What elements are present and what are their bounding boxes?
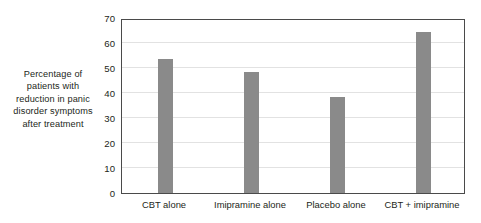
y-axis-label-line: reduction in panic [4, 93, 102, 105]
bar-chart-figure: Percentage of patients with reduction in… [0, 0, 481, 223]
y-axis-tick-label: 30 [89, 114, 115, 124]
y-axis-tick-label: 60 [89, 39, 115, 49]
y-axis-tick-label: 10 [89, 164, 115, 174]
y-axis-label: Percentage of patients with reduction in… [4, 68, 102, 130]
bar [330, 97, 345, 193]
y-axis-tick-label: 20 [89, 139, 115, 149]
y-axis-label-line: disorder symptoms [4, 105, 102, 117]
bar-slot [122, 20, 208, 193]
y-axis-tick-label: 0 [89, 189, 115, 199]
y-axis-tick-label: 70 [89, 14, 115, 24]
y-axis-tick-label: 50 [89, 64, 115, 74]
bar [416, 32, 431, 193]
y-axis-label-line: Percentage of [4, 68, 102, 80]
bar [158, 59, 173, 193]
y-axis-label-line: patients with [4, 80, 102, 92]
bar [244, 72, 259, 193]
bar-slot [208, 20, 294, 193]
bar-slot [380, 20, 466, 193]
x-axis-category-label: CBT + imipramine [367, 199, 477, 210]
y-axis-label-line: after treatment [4, 118, 102, 130]
plot-area [121, 19, 465, 194]
y-axis-tick-label: 40 [89, 89, 115, 99]
bar-slot [294, 20, 380, 193]
